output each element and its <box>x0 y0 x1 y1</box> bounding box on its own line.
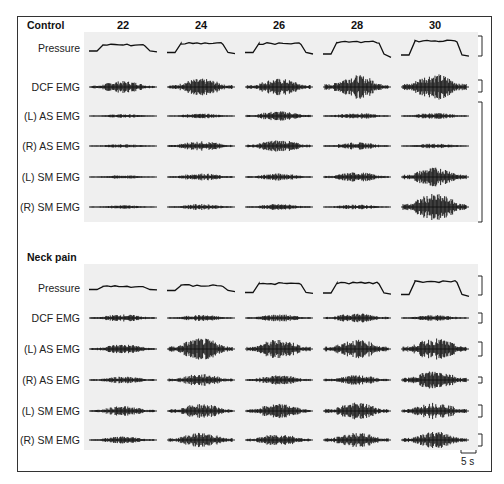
emg-trace <box>245 315 313 322</box>
calibration-bracket <box>478 102 482 222</box>
pressure-trace <box>401 40 469 56</box>
emg-trace <box>401 113 469 119</box>
emg-trace <box>401 74 469 99</box>
emg-trace <box>323 314 391 323</box>
calibration-bracket <box>478 80 482 92</box>
emg-trace <box>401 168 469 187</box>
emg-trace <box>245 140 313 151</box>
pressure-trace <box>245 283 313 294</box>
emg-trace <box>167 141 235 150</box>
calibration-bracket <box>478 276 482 295</box>
emg-trace <box>89 175 157 178</box>
emg-trace <box>167 114 235 119</box>
traces-layer <box>0 0 504 484</box>
pressure-trace <box>401 281 469 297</box>
emg-trace <box>167 204 235 210</box>
emg-trace <box>245 111 313 120</box>
emg-trace <box>323 113 391 119</box>
emg-trace <box>401 144 469 148</box>
emg-trace <box>245 79 313 95</box>
emg-trace <box>401 339 469 360</box>
pressure-trace <box>167 43 235 54</box>
emg-trace <box>323 75 391 99</box>
pressure-trace <box>89 44 157 52</box>
scale-bar-label: 5 s <box>461 456 474 467</box>
emg-trace <box>323 173 391 182</box>
pressure-trace <box>167 285 235 292</box>
emg-trace <box>401 372 469 389</box>
pressure-trace <box>323 41 391 57</box>
emg-trace <box>167 174 235 181</box>
calibration-bracket <box>478 377 482 383</box>
emg-trace <box>89 205 157 208</box>
pressure-trace <box>323 282 391 294</box>
emg-trace <box>89 114 157 117</box>
emg-trace <box>89 144 157 147</box>
emg-trace <box>245 375 313 384</box>
emg-trace <box>401 403 469 419</box>
emg-trace <box>167 339 235 360</box>
emg-trace <box>401 315 469 321</box>
emg-trace <box>167 433 235 447</box>
calibration-bracket <box>478 434 482 446</box>
emg-trace <box>89 377 157 384</box>
emg-trace <box>323 340 391 358</box>
emg-trace <box>89 81 157 93</box>
emg-trace <box>89 315 157 322</box>
emg-trace <box>89 437 157 444</box>
emg-trace <box>323 433 391 447</box>
emg-trace <box>89 406 157 415</box>
calibration-bracket <box>478 313 482 323</box>
emg-trace <box>167 79 235 96</box>
emg-trace <box>245 204 313 210</box>
emg-trace <box>245 340 313 358</box>
calibration-bracket <box>478 36 482 56</box>
emg-trace <box>401 432 469 448</box>
emg-trace <box>245 435 313 445</box>
pressure-trace <box>245 43 313 54</box>
emg-trace <box>167 374 235 386</box>
emg-trace <box>89 345 157 353</box>
emg-trace <box>167 404 235 418</box>
emg-trace <box>245 404 313 418</box>
calibration-bracket <box>478 405 482 417</box>
emg-trace <box>167 315 235 321</box>
calibration-bracket <box>478 342 482 356</box>
pressure-trace <box>89 286 157 290</box>
emg-trace <box>245 174 313 181</box>
emg-trace <box>401 194 469 220</box>
time-scale-bar <box>461 450 476 453</box>
emg-trace <box>323 403 391 420</box>
emg-trace <box>323 143 391 150</box>
emg-trace <box>323 375 391 384</box>
emg-trace <box>323 205 391 210</box>
